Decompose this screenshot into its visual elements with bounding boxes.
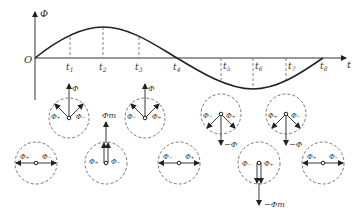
svg-text:Φ₊: Φ₊ [89,158,99,166]
origin-label: O [24,54,32,65]
svg-text:Φ₊: Φ₊ [307,153,317,161]
svg-text:t6: t6 [255,61,263,72]
phasor-t1: Φ Φ₊ Φ₋ [49,84,89,138]
svg-text:Φ₊: Φ₊ [51,113,61,121]
svg-text:Φ₋: Φ₋ [242,160,252,168]
phasor-t3: Φ Φ₋ Φ₊ [125,84,165,138]
svg-text:t3: t3 [135,62,143,73]
diagram-canvas: Φ t O t1 t2 t3 t4 t5 t6 t7 t8 Φ Φ₊ Φ₋ [0,0,357,218]
svg-text:−Φ: −Φ [224,140,238,149]
svg-text:Φ₋: Φ₋ [76,113,86,121]
svg-text:t2: t2 [99,62,107,73]
svg-text:Φ₊: Φ₊ [185,153,195,161]
phasor-t5: −Φ Φ₋ Φ₊ [201,94,241,149]
phasor-t2: Φm Φ₊ Φ₋ [85,111,127,184]
svg-text:Φ₊: Φ₊ [264,160,274,168]
svg-text:−Φm: −Φm [264,200,285,209]
phasor-t4: Φ₋ Φ₊ [158,142,200,184]
svg-text:Φ₋: Φ₋ [291,112,301,120]
svg-text:Φ₋: Φ₋ [163,153,173,161]
x-axis-label: t [347,59,352,70]
svg-text:Φ₊: Φ₊ [152,113,162,121]
svg-text:Φ₋: Φ₋ [203,112,213,120]
svg-text:Φ: Φ [72,84,79,93]
svg-text:Φ₊: Φ₊ [268,112,278,120]
svg-text:Φm: Φm [102,111,117,120]
svg-text:t8: t8 [320,61,328,72]
flux-waveform-diagram: Φ t O t1 t2 t3 t4 t5 t6 t7 t8 Φ Φ₊ Φ₋ [0,0,357,218]
svg-text:Φ₋: Φ₋ [127,113,137,121]
svg-text:Φ₋: Φ₋ [42,153,52,161]
phasor-t8: Φ₊ Φ₋ [302,142,344,184]
svg-text:Φ₋: Φ₋ [111,158,121,166]
phasor-t6: −Φm Φ₋ Φ₊ [238,142,285,209]
svg-text:Φ: Φ [148,84,155,93]
y-axis-label: Φ [40,8,48,19]
svg-text:t4: t4 [173,62,181,73]
svg-text:−Φ: −Φ [289,140,303,149]
svg-text:Φ₊: Φ₊ [20,153,30,161]
phasor-origin: Φ₊ Φ₋ [15,142,57,184]
tick-labels: t1 t2 t3 t4 t5 t6 t7 t8 [66,61,328,73]
svg-text:Φ₊: Φ₊ [226,112,236,120]
phasor-t7: −Φ Φ₊ Φ₋ [266,94,306,149]
svg-text:t7: t7 [288,61,296,72]
svg-text:t1: t1 [66,62,73,73]
svg-text:t5: t5 [223,61,231,72]
svg-text:Φ₋: Φ₋ [329,153,339,161]
